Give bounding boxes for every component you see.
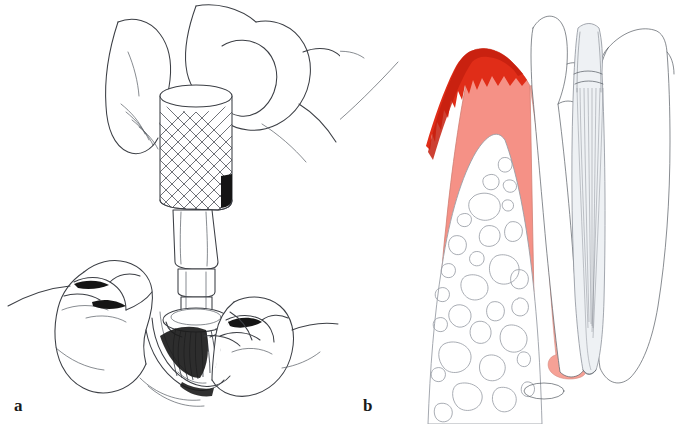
panel-a-label: a xyxy=(14,396,23,416)
adjacent-tooth-edge xyxy=(340,51,398,128)
root-canal xyxy=(572,24,605,375)
panel-a-artwork xyxy=(0,0,340,424)
panel-b-label: b xyxy=(363,396,372,416)
panel-b: b xyxy=(340,0,675,424)
figure-container: a xyxy=(0,0,675,424)
cavity-shadow xyxy=(160,327,208,378)
panel-a: a xyxy=(0,0,340,424)
occlusal-shadow xyxy=(180,382,214,396)
panel-b-artwork xyxy=(340,0,675,424)
grip-shadow xyxy=(221,174,232,208)
handpiece-neck xyxy=(173,210,218,269)
left-molar xyxy=(8,260,153,392)
